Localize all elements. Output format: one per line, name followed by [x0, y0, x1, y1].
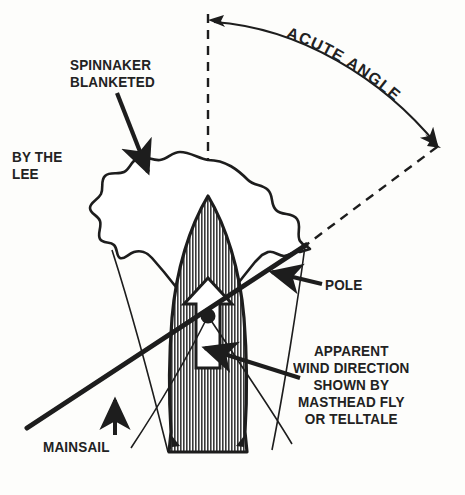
arc-left-arrowhead-icon	[208, 15, 225, 27]
pole-label: POLE	[325, 276, 362, 293]
pole-label-arrow	[272, 272, 322, 284]
dashed-diagonal-wind-ray	[302, 144, 441, 248]
diagram-canvas: ACUTE ANGLE SPINNAKER BLANKETED BY THE L…	[0, 0, 465, 495]
apparent-wind-label: APPARENT WIND DIRECTION SHOWN BY MASTHEA…	[293, 342, 410, 427]
mast-pivot-dot	[201, 309, 216, 324]
by-the-lee-label: BY THE LEE	[12, 148, 62, 182]
spinnaker-blanketed-label: SPINNAKER BLANKETED	[70, 56, 155, 90]
arc-right-arrowhead-icon	[425, 134, 441, 148]
spinnaker-label-arrow	[117, 93, 148, 172]
mainsail-label: MAINSAIL	[43, 438, 110, 455]
acute-angle-label: ACUTE ANGLE	[284, 24, 404, 104]
